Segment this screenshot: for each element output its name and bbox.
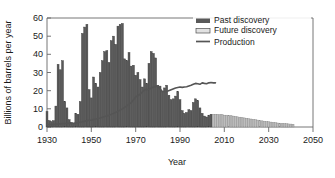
y-tick-20: 20: [33, 86, 43, 96]
bar: [183, 113, 185, 127]
bar: [270, 122, 272, 127]
oil-discovery-production-chart: 60 50 40 30 20 10 0 1930 1950 1970 1990 …: [0, 0, 335, 178]
bar: [279, 123, 281, 127]
bar: [144, 79, 146, 127]
bar: [170, 100, 172, 127]
bar: [221, 115, 223, 127]
x-tick-1950: 1950: [81, 135, 101, 145]
bar: [277, 123, 279, 127]
bar: [186, 112, 188, 127]
bar: [252, 119, 254, 127]
bar: [212, 114, 214, 127]
bar: [148, 63, 150, 127]
bar: [77, 114, 79, 127]
x-tick-2050: 2050: [303, 135, 323, 145]
bar: [82, 33, 84, 127]
y-tick-10: 10: [33, 104, 43, 114]
bar: [199, 108, 201, 127]
bar: [283, 124, 285, 127]
bar: [272, 122, 274, 127]
bar: [168, 95, 170, 127]
bar: [203, 116, 205, 127]
bar: [161, 92, 163, 127]
bar: [75, 113, 77, 127]
bar: [164, 88, 166, 127]
bar: [88, 90, 90, 127]
bar: [181, 111, 183, 127]
legend-label-future-discovery: Future discovery: [214, 25, 278, 35]
bar: [288, 124, 290, 127]
bar: [250, 119, 252, 127]
bar: [108, 63, 110, 127]
x-axis-title: Year: [168, 157, 186, 167]
legend-label-past-discovery: Past discovery: [214, 15, 270, 25]
bar: [217, 114, 219, 127]
x-tick-2010: 2010: [214, 135, 234, 145]
bar: [126, 61, 128, 127]
bar: [208, 115, 210, 127]
bar: [128, 53, 130, 127]
bar: [281, 123, 283, 127]
bar: [139, 80, 141, 127]
bar: [237, 117, 239, 127]
bar: [248, 119, 250, 127]
bar: [268, 122, 270, 127]
bar: [121, 23, 123, 127]
x-tick-1970: 1970: [126, 135, 146, 145]
bar: [90, 98, 92, 127]
bar: [179, 100, 181, 127]
bar: [274, 123, 276, 127]
y-tick-50: 50: [33, 31, 43, 41]
bar: [86, 24, 88, 127]
bar: [290, 124, 292, 127]
bar: [188, 110, 190, 127]
bar: [259, 120, 261, 127]
bar: [254, 120, 256, 127]
bar: [84, 27, 86, 127]
bar: [219, 115, 221, 127]
bar: [239, 117, 241, 127]
bar: [232, 116, 234, 127]
bar: [177, 92, 179, 127]
bar: [223, 115, 225, 127]
bar: [226, 115, 228, 127]
bar: [243, 118, 245, 127]
legend: Past discovery Future discovery Producti…: [193, 13, 311, 47]
y-tick-40: 40: [33, 49, 43, 59]
bar: [241, 118, 243, 127]
bar: [230, 116, 232, 127]
y-axis-title: Billions of barrels per year: [3, 20, 13, 124]
bar: [257, 120, 259, 127]
bar: [201, 113, 203, 127]
bar: [115, 44, 117, 127]
bar: [95, 83, 97, 127]
x-tick-2030: 2030: [259, 135, 279, 145]
bar: [130, 66, 132, 127]
bar: [197, 101, 199, 127]
bar: [119, 24, 121, 127]
bar: [157, 85, 159, 127]
y-tick-60: 60: [33, 13, 43, 23]
bar: [215, 114, 217, 127]
bar: [210, 114, 212, 127]
bar: [152, 53, 154, 127]
bar: [246, 118, 248, 127]
bar: [228, 116, 230, 127]
y-tick-0: 0: [38, 122, 43, 132]
legend-swatch-future-discovery: [196, 29, 210, 34]
bar: [133, 65, 135, 127]
bar: [266, 122, 268, 127]
bar: [263, 121, 265, 127]
bar: [175, 96, 177, 127]
x-tick-1990: 1990: [170, 135, 190, 145]
bar: [137, 73, 139, 128]
bar: [57, 64, 59, 127]
bar: [155, 58, 157, 127]
bar: [234, 116, 236, 127]
legend-swatch-past-discovery: [196, 19, 210, 24]
bar: [159, 86, 161, 127]
legend-label-production: Production: [214, 37, 255, 47]
bar: [206, 117, 208, 127]
bar: [172, 99, 174, 127]
y-tick-30: 30: [33, 68, 43, 78]
